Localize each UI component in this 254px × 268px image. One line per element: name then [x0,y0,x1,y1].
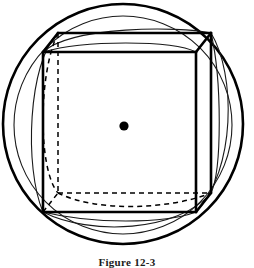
great-circle-lower-second [43,212,196,221]
great-circle-left-hidden [43,33,58,193]
figure-caption: Figure 12-3 [0,256,254,268]
hidden-edge-bottom-left-depth [43,193,58,212]
cube-hidden-edges [43,33,211,212]
cube-visible-edges [43,33,211,212]
great-circle-upper-second [43,43,196,52]
great-circle-arcs [31,29,228,227]
center-point-dot [119,121,128,130]
great-circle-bottom-hidden [58,193,211,207]
hidden-great-circle-arcs [43,33,211,207]
